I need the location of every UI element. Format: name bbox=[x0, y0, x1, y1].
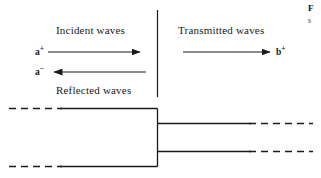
waveguide-discontinuity-figure: Incident waves Transmitted waves Reflect… bbox=[0, 0, 321, 178]
transmitted-waves-label: Transmitted waves bbox=[178, 25, 264, 36]
incident-amplitude-sign: + bbox=[40, 44, 44, 53]
incident-amplitude-label: a+ bbox=[35, 48, 44, 58]
reflected-amplitude-label: a− bbox=[35, 68, 44, 78]
transmitted-amplitude-sign: + bbox=[281, 44, 285, 53]
incident-waves-label: Incident waves bbox=[56, 25, 125, 36]
caption-line-1: F bbox=[308, 3, 321, 13]
caption-line-2: s bbox=[308, 16, 321, 25]
figure-canvas bbox=[0, 0, 321, 178]
reflected-waves-label: Reflected waves bbox=[56, 85, 131, 96]
figure-caption-clipped: F s bbox=[308, 3, 321, 25]
reflected-amplitude-sign: − bbox=[40, 64, 44, 73]
transmitted-amplitude-label: b+ bbox=[276, 48, 286, 58]
